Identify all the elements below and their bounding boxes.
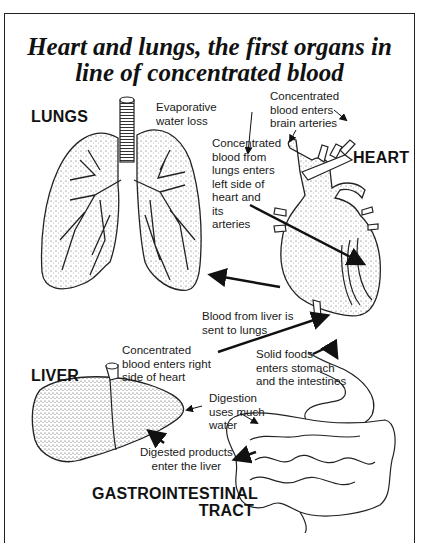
- trachea: [120, 100, 134, 162]
- note-evaporative-water-loss: Evaporative water loss: [156, 101, 217, 128]
- label-lungs: LUNGS: [31, 108, 88, 126]
- note-digestion-water: Digestion uses much water: [209, 392, 265, 433]
- label-gi-line-2: TRACT: [92, 502, 254, 519]
- note-digested-products: Digested products enter the liver: [140, 446, 233, 473]
- note-left-side-of-heart: Concentrated blood from lungs enters lef…: [212, 137, 281, 232]
- label-heart: HEART: [353, 149, 409, 167]
- label-gi-tract: GASTROINTESTINAL TRACT: [92, 485, 254, 519]
- label-gi-line-1: GASTROINTESTINAL: [92, 485, 254, 502]
- arrow-to-lungs: [212, 275, 280, 287]
- note-right-side-of-heart: Concentrated blood enters right side of …: [122, 344, 211, 385]
- label-liver: LIVER: [31, 367, 79, 385]
- arrow-digested-products: [150, 432, 164, 443]
- note-solid-foods: Solid foods enters stomach and the intes…: [256, 348, 346, 389]
- note-brain-arteries: Concentrated blood enters brain arteries: [270, 90, 339, 131]
- note-liver-to-lungs: Blood from liver is sent to lungs: [202, 310, 293, 337]
- arrow-digestion-liver: [187, 406, 202, 410]
